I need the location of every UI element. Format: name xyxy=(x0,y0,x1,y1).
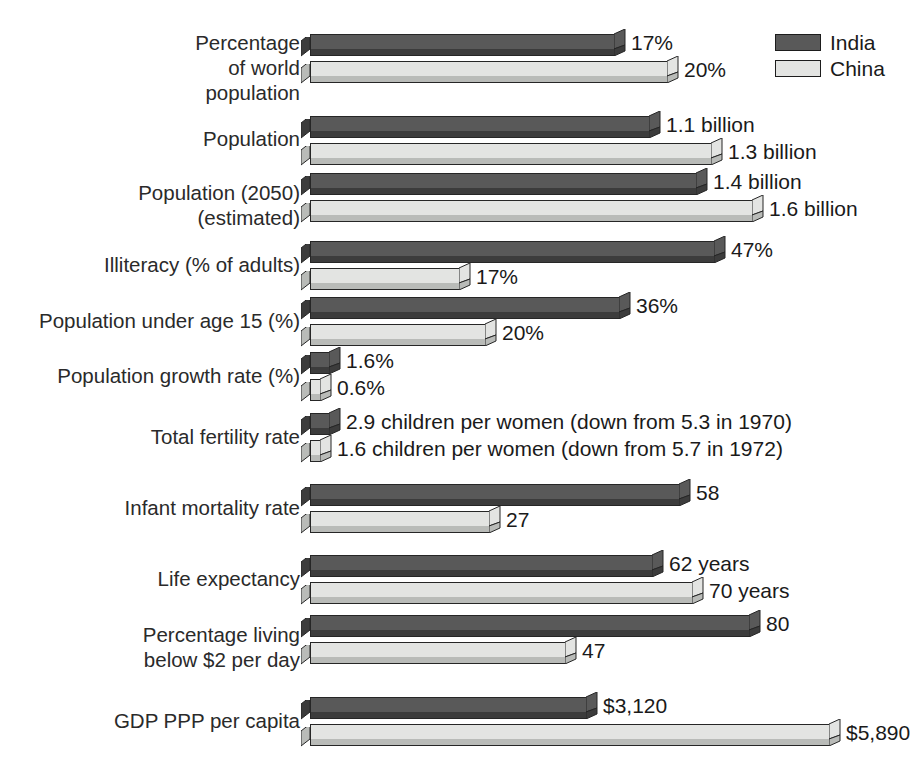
bar-end-cap-icon xyxy=(320,374,332,401)
bar-value-india: 58 xyxy=(696,482,719,504)
bar-end-cap-icon xyxy=(459,263,471,290)
row-label: GDP PPP per capita xyxy=(0,708,300,733)
bar-end-cap-icon xyxy=(667,56,679,83)
bar-end-cap-icon xyxy=(619,292,631,319)
bar-india[interactable] xyxy=(310,484,680,504)
bar-china[interactable] xyxy=(310,379,321,399)
bar-value-china: 1.6 children per women (down from 5.7 in… xyxy=(337,438,783,460)
bar-front-face xyxy=(310,339,486,346)
bar-end-cap-icon xyxy=(752,195,764,222)
bar-value-china: 1.6 billion xyxy=(769,198,858,220)
legend-label-china: China xyxy=(830,58,885,79)
bar-top-face xyxy=(310,297,620,312)
bar-end-cap-icon xyxy=(679,479,691,506)
bar-front-face xyxy=(310,739,830,746)
bar-value-china: 70 years xyxy=(709,580,790,602)
bar-india[interactable] xyxy=(310,352,330,372)
bar-value-india: 17% xyxy=(631,32,673,54)
bar-china[interactable] xyxy=(310,642,566,662)
bar-value-china: 27 xyxy=(506,509,529,531)
row-label: Population growth rate (%) xyxy=(0,363,300,388)
bar-top-face xyxy=(310,697,587,712)
bar-front-face xyxy=(310,630,750,637)
bar-front-face xyxy=(310,428,330,435)
bar-top-face xyxy=(310,413,330,428)
bar-top-face xyxy=(310,440,321,455)
bar-end-cap-icon xyxy=(711,138,723,165)
bar-top-face xyxy=(310,724,830,739)
bar-china[interactable] xyxy=(310,511,490,531)
bar-end-cap-icon xyxy=(714,236,726,263)
bar-front-face xyxy=(310,188,697,195)
bar-value-india: 1.6% xyxy=(346,350,394,372)
bar-india[interactable] xyxy=(310,697,587,717)
bar-india[interactable] xyxy=(310,413,330,433)
bar-end-cap-icon xyxy=(652,550,664,577)
legend-item-china: China xyxy=(775,56,915,80)
bar-top-face xyxy=(310,241,715,256)
bar-china[interactable] xyxy=(310,324,486,344)
bar-india[interactable] xyxy=(310,555,653,575)
bar-china[interactable] xyxy=(310,61,668,81)
bar-china[interactable] xyxy=(310,724,830,744)
bar-top-face xyxy=(310,143,712,158)
bar-end-cap-icon xyxy=(320,435,332,462)
bar-value-india: 36% xyxy=(636,295,678,317)
bar-india[interactable] xyxy=(310,34,615,54)
bar-china[interactable] xyxy=(310,268,460,288)
row-label: Life expectancy xyxy=(0,566,300,591)
legend-swatch-china-icon xyxy=(775,60,821,77)
bar-front-face xyxy=(310,570,653,577)
bar-end-cap-icon xyxy=(329,408,341,435)
bar-value-india: $3,120 xyxy=(603,695,667,717)
bar-china[interactable] xyxy=(310,143,712,163)
bar-india[interactable] xyxy=(310,241,715,261)
bar-end-cap-icon xyxy=(489,506,501,533)
bar-india[interactable] xyxy=(310,116,650,136)
bar-front-face xyxy=(310,455,321,462)
row-label: Population xyxy=(0,126,300,151)
bar-front-face xyxy=(310,49,615,56)
bar-value-india: 1.4 billion xyxy=(713,171,802,193)
bar-china[interactable] xyxy=(310,440,321,460)
bar-front-face xyxy=(310,256,715,263)
bar-value-china: $5,890 xyxy=(846,722,910,744)
bar-china[interactable] xyxy=(310,200,753,220)
bar-top-face xyxy=(310,116,650,131)
bar-end-cap-icon xyxy=(696,168,708,195)
bar-front-face xyxy=(310,712,587,719)
bar-front-face xyxy=(310,158,712,165)
bar-end-cap-icon xyxy=(649,111,661,138)
bar-front-face xyxy=(310,131,650,138)
legend-swatch-india-icon xyxy=(775,34,821,51)
bar-top-face xyxy=(310,352,330,367)
row-label: Percentage living below $2 per day xyxy=(0,622,300,672)
bar-front-face xyxy=(310,283,460,290)
bar-front-face xyxy=(310,657,566,664)
bar-front-face xyxy=(310,499,680,506)
bar-top-face xyxy=(310,379,321,394)
bar-front-face xyxy=(310,76,668,83)
row-label: Population (2050) (estimated) xyxy=(0,180,300,230)
bar-india[interactable] xyxy=(310,615,750,635)
row-label: Infant mortality rate xyxy=(0,495,300,520)
bar-top-face xyxy=(310,173,697,188)
bar-india[interactable] xyxy=(310,297,620,317)
comparison-bar-chart: India China Percentage of world populati… xyxy=(0,0,920,782)
bar-top-face xyxy=(310,324,486,339)
bar-top-face xyxy=(310,34,615,49)
bar-value-china: 47 xyxy=(582,640,605,662)
bar-end-cap-icon xyxy=(749,610,761,637)
bar-china[interactable] xyxy=(310,582,693,602)
bar-top-face xyxy=(310,582,693,597)
bar-india[interactable] xyxy=(310,173,697,193)
bar-front-face xyxy=(310,526,490,533)
bar-value-china: 20% xyxy=(684,59,726,81)
row-label: Illiteracy (% of adults) xyxy=(0,252,300,277)
row-label: Percentage of world population xyxy=(0,30,300,105)
bar-end-cap-icon xyxy=(565,637,577,664)
bar-front-face xyxy=(310,312,620,319)
bar-value-china: 20% xyxy=(502,322,544,344)
legend-label-india: India xyxy=(830,32,876,53)
bar-value-china: 17% xyxy=(476,266,518,288)
